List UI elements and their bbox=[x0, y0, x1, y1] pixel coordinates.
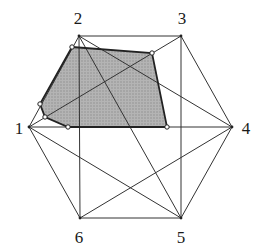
edge-4-5 bbox=[181, 127, 232, 218]
shaded-polygon bbox=[40, 47, 167, 127]
edge-6-4 bbox=[80, 127, 232, 218]
vertex-label-3: 3 bbox=[178, 10, 187, 27]
vertex-4 bbox=[231, 126, 234, 129]
vertex-label-4: 4 bbox=[242, 120, 251, 137]
graph-diagram bbox=[0, 0, 263, 252]
edge-1-5 bbox=[29, 127, 181, 218]
region-vertex-marker bbox=[38, 102, 42, 106]
region-vertex-marker bbox=[150, 51, 154, 55]
vertex-2 bbox=[78, 35, 81, 38]
vertex-1 bbox=[28, 126, 31, 129]
vertex-6 bbox=[79, 217, 82, 220]
region-vertex-marker bbox=[43, 115, 47, 119]
region-vertex-marker bbox=[66, 125, 70, 129]
region-vertex-marker bbox=[70, 45, 74, 49]
shaded-region bbox=[40, 47, 167, 127]
edge-6-1 bbox=[29, 127, 80, 218]
vertex-label-6: 6 bbox=[75, 229, 84, 246]
vertex-5 bbox=[180, 217, 183, 220]
vertex-label-1: 1 bbox=[15, 120, 24, 137]
vertex-label-5: 5 bbox=[177, 229, 186, 246]
vertex-3 bbox=[180, 35, 183, 38]
region-vertex-marker bbox=[165, 125, 169, 129]
edge-3-4 bbox=[181, 36, 232, 127]
vertex-label-2: 2 bbox=[74, 10, 83, 27]
